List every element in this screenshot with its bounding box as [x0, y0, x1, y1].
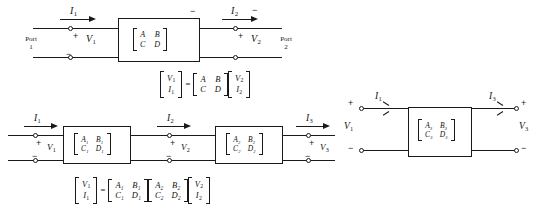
eq2-rhs-v2: V2 [195, 180, 203, 190]
cascade-node-top-right [306, 133, 311, 138]
equivalent-arrow-i3-head [496, 104, 503, 112]
cascade-arrow-i1-shaft [24, 126, 52, 127]
plus-sign-v2: + [238, 32, 243, 41]
cascade-arrow-i2-shaft [157, 126, 185, 127]
eq2-m2-cell-c: C₂ [155, 191, 164, 200]
cascade-minus-v3: − [305, 152, 310, 161]
equivalent-voltage-label-v3: V3 [519, 122, 528, 132]
matrix-cell-b: B [155, 31, 160, 39]
eq2-m2-cell-b: B₂ [172, 181, 180, 190]
wire-top-left [33, 28, 118, 29]
equals-sign-1: = [182, 80, 193, 89]
matrix2-cell-c: C₂ [233, 145, 241, 153]
equivalent-plus-v3: + [521, 99, 526, 108]
cascade-voltage-label-v2: V2 [181, 143, 190, 153]
cascade-current-label-i3: I3 [306, 114, 313, 124]
eq1-cell-a: A [200, 75, 205, 84]
terminal-node-bottom-right [233, 55, 238, 60]
equivalent-wire-top-right [472, 108, 516, 109]
cascade-arrow-i1-head [51, 123, 58, 129]
cascade-current-label-i2: I2 [167, 114, 174, 124]
equivalent-arrow-i1-head [382, 104, 389, 112]
abcd-matrix-in-box: A B C D [133, 28, 167, 51]
current-label-i1: I1 [70, 6, 77, 17]
minus-sign-v1: − [66, 50, 71, 59]
eq1-rhs-i2: I2 [236, 85, 242, 95]
matrix-cell-c: C [140, 41, 145, 49]
eq1-lhs-v1: V1 [167, 74, 175, 84]
eq2-abcd2-matrix: A₂ B₂ C₂ D₂ [148, 179, 188, 203]
eq1-cell-d: D [215, 85, 221, 94]
bracket-right [259, 133, 263, 155]
eq1-cell-b: B [215, 75, 220, 84]
cascade-arrow-i3-shaft [296, 126, 324, 127]
equivalent-wire-bottom-right [472, 150, 516, 151]
matrix1-cell-c: C₁ [81, 145, 89, 153]
cascade-wire-bottom-mid [131, 160, 215, 161]
bracket-right [107, 133, 111, 155]
plus-sign-v1: + [73, 32, 78, 41]
equivalent-node-top-right [514, 106, 519, 111]
matrix-cell-a: A [140, 31, 145, 39]
equivalent-minus-v1: − [348, 144, 353, 153]
figure-canvas: A B C D I1 I2 − − [0, 0, 541, 216]
equivalent-minus-v3: − [521, 144, 526, 153]
eq2-column-vector-rhs: V2 I2 [188, 177, 210, 204]
bracket-right [178, 71, 182, 98]
bracket-right [163, 28, 167, 51]
cascade-plus-v1: + [36, 139, 41, 148]
eq1-column-vector-lhs: V1 I1 [160, 71, 182, 98]
cascade-arrow-i2-head [184, 123, 191, 129]
equivalent-node-top-left [359, 106, 364, 111]
equivalent-current-label-i1: I1 [375, 92, 382, 102]
wire-bottom-right [200, 57, 282, 58]
equation-cascade: V1 I1 = A₁ B₁ C₁ D₁ A₂ B₂ C₂ D₂ [75, 177, 210, 204]
eq2-m1-cell-d: D₁ [132, 191, 141, 200]
matrix1-cell-b: B₁ [96, 136, 103, 144]
cascade-voltage-label-v1: V1 [47, 143, 56, 153]
matrix2-cell-d: D₂ [248, 145, 256, 153]
voltage-label-v2: V2 [251, 34, 261, 45]
eq2-lhs-v1: V1 [82, 180, 90, 190]
matrix-cell-d: D [154, 41, 160, 49]
terminal-node-top-right [233, 26, 238, 31]
cascade-wire-top-mid [131, 135, 215, 136]
cascade-current-label-i1: I1 [34, 114, 41, 124]
eq1-rhs-v2: V2 [235, 74, 243, 84]
matrix2-cell-b: B₂ [248, 136, 255, 144]
matrix1-cell-d: D₁ [96, 145, 104, 153]
current-arrow-i2-head [251, 16, 258, 22]
matrix2-cell-a: A₂ [233, 136, 240, 144]
wire-bottom-left [33, 57, 118, 58]
abcd3-matrix-in-box: A₃ B₃ C₃ D₃ [418, 119, 455, 141]
equivalent-wire-bottom-left [361, 150, 408, 151]
eq1-column-vector-rhs: V2 I2 [228, 71, 250, 98]
matrix3-cell-b: B₃ [440, 122, 447, 130]
cascade-plus-v2: + [170, 139, 175, 148]
abcd1-matrix-in-box: A₁ B₁ C₁ D₁ [74, 133, 111, 155]
eq2-m1-cell-b: B₁ [132, 181, 140, 190]
wire-top-right [200, 28, 282, 29]
eq1-cell-c: C [200, 85, 206, 94]
current-arrow-i1-head [89, 16, 96, 22]
eq2-m1-cell-a: A₁ [115, 181, 123, 190]
eq1-lhs-i1: I1 [168, 85, 174, 95]
bracket-right [451, 119, 455, 141]
eq2-rhs-i2: I2 [196, 191, 202, 201]
equals-sign-2: = [97, 186, 108, 195]
eq1-abcd-matrix: A B C D [193, 73, 228, 97]
equivalent-node-bottom-right [514, 148, 519, 153]
eq2-m2-cell-a: A₂ [155, 181, 163, 190]
cascade-arrow-i3-head [323, 123, 330, 129]
matrix3-cell-a: A₃ [425, 122, 432, 130]
eq2-column-vector-lhs: V1 I1 [75, 177, 97, 204]
eq2-abcd1-matrix: A₁ B₁ C₁ D₁ [108, 179, 148, 203]
cascade-node-top-left [33, 133, 38, 138]
cascade-plus-v3: + [309, 139, 314, 148]
cascade-node-top-mid [167, 133, 172, 138]
matrix1-cell-a: A₁ [81, 136, 88, 144]
terminal-node-top-left [68, 26, 73, 31]
equivalent-current-label-i3: I3 [489, 92, 496, 102]
eq2-m2-cell-d: D₂ [172, 191, 181, 200]
bracket-right [93, 177, 97, 204]
